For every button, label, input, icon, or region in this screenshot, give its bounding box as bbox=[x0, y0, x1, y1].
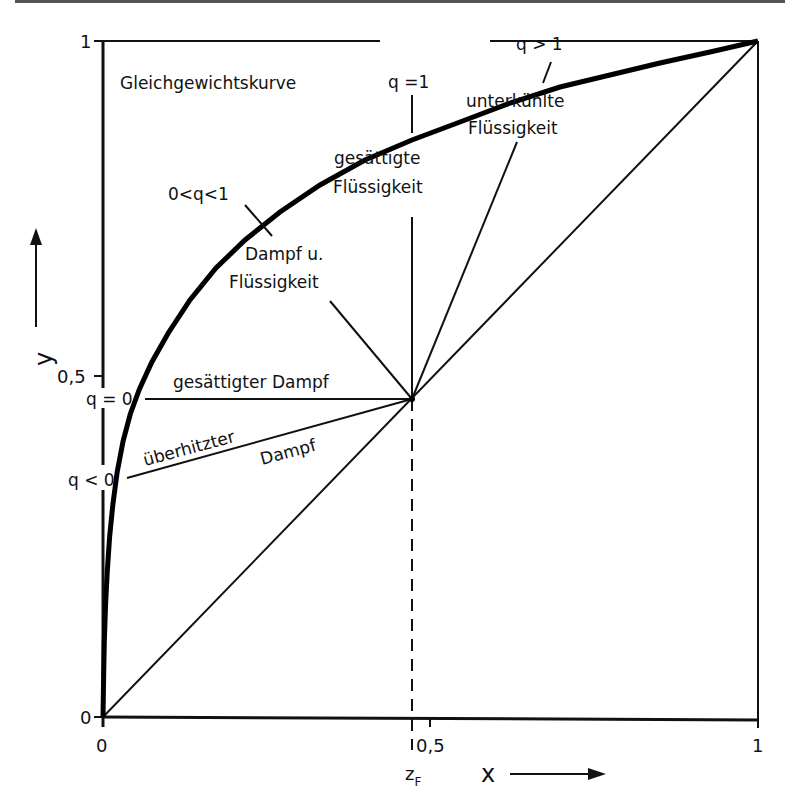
mccabe-thiele-diagram: Gleichgewichtskurve q > 1 q =1 unterkühl… bbox=[0, 0, 785, 802]
q-line-q-gt-1-top bbox=[543, 62, 551, 83]
x-tick-label-05: 0,5 bbox=[416, 735, 445, 756]
y-tick-label-1: 1 bbox=[80, 31, 91, 52]
satliq-label-1: gesättigte bbox=[334, 148, 421, 168]
feed-point bbox=[409, 396, 415, 402]
x-tick-label-1: 1 bbox=[752, 735, 763, 756]
q-between-label: 0<q<1 bbox=[168, 184, 229, 204]
mix-label-1: Dampf u. bbox=[245, 244, 323, 264]
mix-label-2: Flüssigkeit bbox=[229, 272, 319, 292]
y-axis-label: y bbox=[30, 352, 58, 366]
q-line-0-lt-q-lt-1 bbox=[330, 301, 412, 399]
subcooled-label-2: Flüssigkeit bbox=[468, 118, 558, 138]
q-eq-0-label: q = 0 bbox=[86, 389, 133, 409]
zf-label: zF bbox=[405, 763, 421, 789]
q-line-q-gt-1 bbox=[412, 142, 517, 399]
q-lt-0-label: q < 0 bbox=[68, 470, 115, 490]
curve-label: Gleichgewichtskurve bbox=[120, 73, 296, 93]
x-axis-label: x bbox=[481, 760, 495, 788]
satliq-label-2: Flüssigkeit bbox=[333, 177, 423, 197]
y-axis-arrow-icon bbox=[30, 228, 42, 327]
q-eq-1-label: q =1 bbox=[388, 72, 429, 92]
y-tick-label-05: 0,5 bbox=[57, 366, 86, 387]
q-gt-1-label: q > 1 bbox=[516, 34, 563, 54]
subcooled-label-1: unterkühlte bbox=[466, 91, 564, 111]
satvap-label: gesättigter Dampf bbox=[173, 372, 330, 392]
y-tick-label-0: 0 bbox=[80, 707, 91, 728]
superheated-label-1: überhitzter bbox=[141, 426, 237, 470]
x-axis-arrow-icon bbox=[510, 768, 606, 780]
x-tick-label-0: 0 bbox=[96, 735, 107, 756]
